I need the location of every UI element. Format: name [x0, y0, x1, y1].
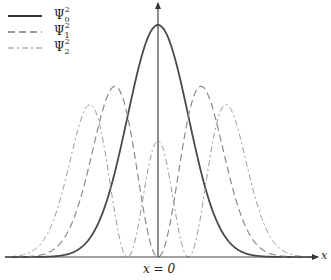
curve-psi0-squared [5, 25, 316, 257]
legend: Ψ02 Ψ12 Ψ22 [8, 8, 70, 56]
legend-item-psi0: Ψ02 [8, 8, 70, 24]
legend-swatch-solid [8, 13, 42, 19]
legend-label-psi2: Ψ22 [54, 39, 70, 56]
x-axis-label: x [321, 249, 327, 262]
plot-curves [5, 25, 316, 257]
legend-item-psi1: Ψ12 [8, 24, 70, 40]
center-label: x = 0 [143, 262, 175, 276]
legend-swatch-dashed [8, 29, 42, 35]
curve-psi2-squared [5, 105, 316, 257]
curve-psi1-squared [5, 86, 316, 257]
legend-item-psi2: Ψ22 [8, 40, 70, 56]
legend-swatch-dashdot [8, 45, 42, 51]
